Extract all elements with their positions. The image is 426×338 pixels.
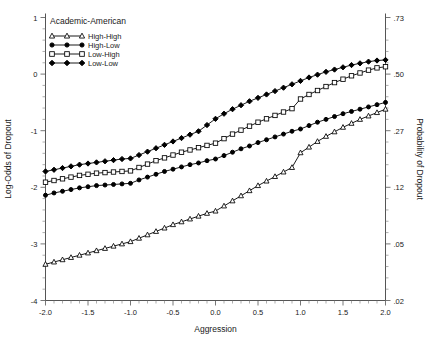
data-point-open-square <box>43 180 47 184</box>
data-point-open-triangle <box>289 165 294 170</box>
data-point-filled-circle <box>171 167 175 171</box>
data-point-open-square <box>120 169 124 173</box>
data-point-filled-diamond <box>145 149 150 154</box>
data-point-filled-circle <box>205 159 209 163</box>
y-axis-title-right: Probability of Dropout <box>415 118 425 200</box>
data-point-filled-diamond <box>238 103 243 108</box>
legend-label-low-high: Low-High <box>88 50 120 59</box>
data-point-open-square <box>213 141 217 145</box>
x-tick-label: 1.0 <box>295 308 305 317</box>
data-point-filled-diamond <box>162 142 167 147</box>
data-point-filled-diamond <box>60 165 65 170</box>
data-point-open-triangle <box>247 188 252 193</box>
data-point-filled-diamond <box>247 99 252 104</box>
data-point-open-square <box>375 66 379 70</box>
data-point-filled-diamond <box>179 135 184 140</box>
data-point-filled-diamond <box>136 152 141 157</box>
data-point-filled-diamond <box>281 85 286 90</box>
data-point-open-triangle <box>323 134 328 139</box>
data-point-open-square <box>281 110 285 114</box>
data-point-filled-diamond <box>289 82 294 87</box>
data-point-open-square <box>366 68 370 72</box>
data-point-open-triangle <box>264 178 269 183</box>
y-tick-label-left: -2 <box>31 183 38 192</box>
data-point-open-triangle <box>383 106 388 111</box>
y-tick-label-left: -1 <box>31 127 38 136</box>
data-point-filled-diamond <box>357 61 362 66</box>
data-point-open-square <box>298 97 302 101</box>
data-point-filled-circle <box>95 184 99 188</box>
data-point-filled-diamond <box>43 169 48 174</box>
data-point-filled-circle <box>239 147 243 151</box>
data-point-filled-circle <box>44 193 48 197</box>
data-point-open-triangle <box>281 169 286 174</box>
data-point-open-square <box>349 74 353 78</box>
data-point-filled-circle <box>341 112 345 116</box>
data-point-filled-circle <box>86 185 90 189</box>
y-axis-title-left: Log-Odds of Dropout <box>3 119 13 199</box>
data-point-filled-circle <box>316 120 320 124</box>
data-point-open-square <box>94 171 98 175</box>
x-axis-title: Aggression <box>194 324 237 334</box>
data-point-open-square <box>196 145 200 149</box>
y-tick-label-left: -3 <box>31 240 38 249</box>
data-point-open-square <box>247 124 251 128</box>
data-point-filled-circle <box>80 43 84 47</box>
data-point-filled-circle <box>112 182 116 186</box>
data-point-filled-diamond <box>306 75 311 80</box>
data-point-open-square <box>341 77 345 81</box>
data-point-open-square <box>264 117 268 121</box>
data-point-open-square <box>188 148 192 152</box>
y-tick-label-left: 1 <box>33 14 37 23</box>
legend-title: Academic-American <box>50 16 126 26</box>
x-tick-label: 2.0 <box>380 308 390 317</box>
data-point-filled-circle <box>137 178 141 182</box>
data-point-filled-diamond <box>170 139 175 144</box>
data-point-filled-diamond <box>119 156 124 161</box>
series-low-high <box>43 65 387 185</box>
data-point-open-triangle <box>213 208 218 213</box>
y-tick-label-right: .73 <box>394 14 404 23</box>
data-point-filled-circle <box>358 107 362 111</box>
data-point-filled-diamond <box>349 62 354 67</box>
data-point-filled-diamond <box>340 65 345 70</box>
data-point-open-triangle <box>238 193 243 198</box>
data-point-open-square <box>103 170 107 174</box>
chart-figure: -2.0-1.5-1.0-0.50.00.51.01.52.010-1-2-3-… <box>0 0 426 338</box>
data-point-filled-circle <box>120 182 124 186</box>
legend-label-high-high: High-High <box>88 32 121 41</box>
legend-label-high-low: High-Low <box>88 41 120 50</box>
data-point-filled-diamond <box>315 72 320 77</box>
legend: Academic-AmericanHigh-HighHigh-LowLow-Hi… <box>49 16 126 68</box>
series-high-low <box>44 100 388 197</box>
data-point-filled-circle <box>222 154 226 158</box>
data-point-open-square <box>50 52 55 57</box>
data-point-filled-diamond <box>374 58 379 63</box>
data-point-open-square <box>171 153 175 157</box>
data-point-filled-diamond <box>102 159 107 164</box>
data-point-open-square <box>145 162 149 166</box>
data-point-filled-circle <box>52 191 56 195</box>
data-point-filled-circle <box>324 117 328 121</box>
data-point-filled-diamond <box>255 95 260 100</box>
data-point-open-square <box>332 80 336 84</box>
data-point-open-square <box>52 178 56 182</box>
data-point-open-triangle <box>298 150 303 155</box>
data-point-open-triangle <box>272 174 277 179</box>
data-point-filled-diamond <box>77 162 82 167</box>
data-point-open-triangle <box>315 139 320 144</box>
data-point-open-square <box>137 165 141 169</box>
data-point-filled-circle <box>384 100 388 104</box>
data-point-open-square <box>358 71 362 75</box>
y-tick-label-right: .27 <box>394 127 404 136</box>
data-point-filled-diamond <box>94 160 99 165</box>
data-point-open-square <box>86 172 90 176</box>
y-tick-label-right: .05 <box>394 240 404 249</box>
data-point-filled-diamond <box>272 88 277 93</box>
data-point-open-square <box>162 156 166 160</box>
legend-label-low-low: Low-Low <box>88 59 119 68</box>
data-point-open-square <box>80 52 85 57</box>
data-point-filled-diamond <box>187 132 192 137</box>
data-point-filled-circle <box>61 189 65 193</box>
data-point-filled-circle <box>273 135 277 139</box>
